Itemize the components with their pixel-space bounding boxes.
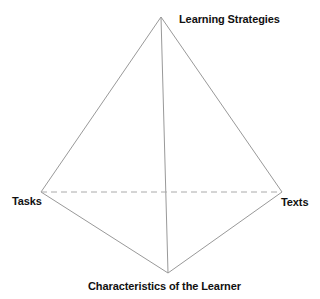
tetrahedron-diagram: Learning Strategies Tasks Texts Characte… bbox=[0, 0, 320, 299]
label-characteristics-of-the-learner: Characteristics of the Learner bbox=[88, 280, 241, 292]
diagram-edges bbox=[0, 0, 320, 299]
label-texts: Texts bbox=[281, 196, 308, 208]
edge-top-right bbox=[161, 17, 282, 192]
edge-top-left bbox=[41, 17, 161, 192]
edge-left-bottom bbox=[41, 192, 168, 273]
label-learning-strategies: Learning Strategies bbox=[179, 13, 280, 25]
label-tasks: Tasks bbox=[12, 195, 42, 207]
edge-right-bottom bbox=[168, 192, 282, 273]
edge-top-bottom bbox=[161, 17, 168, 273]
